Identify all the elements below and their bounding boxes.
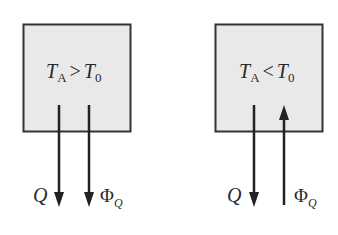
panel-right: TA<T0 Q ΦQ (216, 25, 323, 211)
label-q-right: Q (227, 184, 242, 206)
heat-flow-diagram: TA>T0 Q ΦQ TA<T0 Q (0, 0, 338, 235)
condition-left: TA>T0 (46, 60, 101, 85)
condition-right: TA<T0 (239, 60, 294, 85)
label-phi-right: ΦQ (294, 185, 317, 210)
heat-flux-arrow-right (279, 105, 289, 205)
label-q-left: Q (33, 184, 48, 206)
panel-left: TA>T0 Q ΦQ (24, 25, 131, 211)
label-phi-left: ΦQ (100, 185, 123, 210)
